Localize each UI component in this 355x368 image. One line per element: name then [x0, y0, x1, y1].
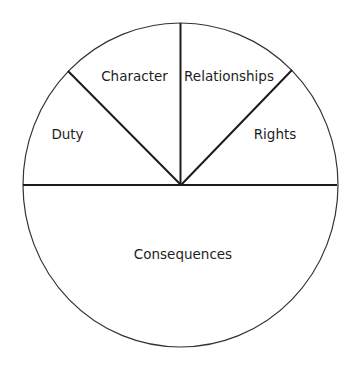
segment-label-rights: Rights [254, 126, 297, 142]
segment-label-relationships: Relationships [184, 68, 274, 84]
segment-label-duty: Duty [51, 126, 83, 142]
segment-label-consequences: Consequences [134, 246, 232, 262]
segment-label-character: Character [101, 68, 168, 84]
left-diagonal-divider [68, 71, 181, 185]
ethics-circle-diagram: Duty Character Relationships Rights Cons… [0, 0, 355, 368]
